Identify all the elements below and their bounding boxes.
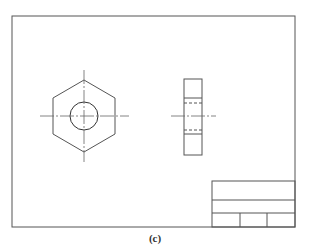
side-outline — [184, 79, 202, 155]
hexagon-front-view — [40, 70, 129, 162]
title-block — [212, 181, 295, 227]
sheet-border — [12, 16, 295, 227]
technical-drawing — [0, 0, 310, 250]
nut-side-view — [171, 79, 216, 155]
title-block-frame — [212, 181, 295, 227]
figure-caption: (c) — [0, 232, 310, 244]
